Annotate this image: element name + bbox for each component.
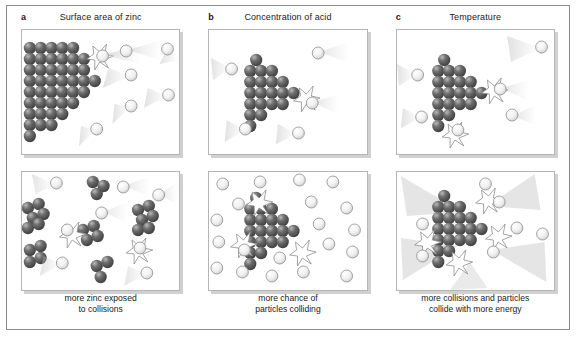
scene-c-bottom [397, 172, 554, 290]
caption-c: more collisions and particles collide wi… [386, 293, 565, 314]
column-a: a Surface area of zinc [7, 6, 194, 329]
rate-of-reaction-figure: a Surface area of zinc [6, 5, 570, 330]
scene-b-top [209, 30, 366, 154]
panel-c-top [396, 29, 555, 155]
column-b-header: b Concentration of acid [194, 11, 381, 27]
column-b: b Concentration of acid [194, 6, 381, 329]
panel-a-bottom [21, 171, 180, 291]
panel-title-a: Surface area of zinc [7, 12, 194, 22]
panel-b-bottom [208, 171, 367, 291]
caption-c-line2: collide with more energy [386, 304, 565, 315]
caption-a: more zinc exposed to collisions [11, 293, 190, 314]
scene-c-top [397, 30, 554, 154]
caption-a-line2: to collisions [11, 304, 190, 315]
panel-title-c: Temperature [382, 12, 569, 22]
caption-c-line1: more collisions and particles [386, 293, 565, 304]
caption-b: more chance of particles colliding [198, 293, 377, 314]
panel-title-b: Concentration of acid [194, 12, 381, 22]
panel-a-top [21, 29, 180, 155]
caption-a-line1: more zinc exposed [11, 293, 190, 304]
caption-b-line2: particles colliding [198, 304, 377, 315]
scene-a-bottom [22, 172, 179, 290]
column-c-header: c Temperature [382, 11, 569, 27]
scene-a-top [22, 30, 179, 154]
zinc-block [432, 54, 487, 132]
scene-b-bottom [209, 172, 366, 290]
panel-b-top [208, 29, 367, 155]
panel-c-bottom [396, 171, 555, 291]
zinc-block [245, 54, 300, 132]
caption-b-line1: more chance of [198, 293, 377, 304]
column-c: c Temperature [382, 6, 569, 329]
column-a-header: a Surface area of zinc [7, 11, 194, 27]
